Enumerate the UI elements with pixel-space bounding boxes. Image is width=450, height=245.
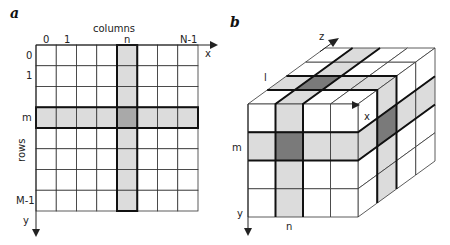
grid-cell [178,128,198,149]
y-axis-label-b: y [237,208,243,219]
grid-cell [56,170,76,191]
x-axis-label-b: x [364,111,370,122]
grid-cell [77,87,97,108]
front-face-cell [276,161,304,189]
label-m: m [232,142,242,153]
grid-cell [56,87,76,108]
cube-3d [244,38,435,236]
column-label-n: n [124,34,130,45]
grid-cell [158,190,178,211]
grid-cell [117,128,137,149]
columns-title: columns [93,23,135,34]
z-arrow-icon [328,38,339,47]
column-label-0: 0 [43,34,49,45]
grid-cell [77,128,97,149]
grid-cell [158,45,178,66]
grid-cell [137,170,157,191]
label-n: n [286,221,292,232]
grid-cell [36,107,56,128]
grid-cell [178,149,198,170]
grid-cell [97,128,117,149]
z-axis-label: z [319,31,324,42]
label-l: l [264,72,267,83]
figure-canvas: a columns 0 1 n N-1 0 1 m M-1 rows x y b… [0,0,450,245]
grid-cell [77,107,97,128]
grid-cell [137,128,157,149]
row-label-m-minus-1: M-1 [16,195,35,206]
y-axis-label-a: y [23,215,29,226]
grid-cell [137,87,157,108]
grid-cell [97,149,117,170]
row-label-1: 1 [26,70,32,81]
grid-cell [178,190,198,211]
grid-cell [178,107,198,128]
grid-cell [56,149,76,170]
panel-b: b z l m n x y [230,14,435,236]
grid-cell [117,45,137,66]
front-face-cell [303,189,331,217]
grid-cell [77,149,97,170]
grid-cell [36,190,56,211]
grid-cell [117,170,137,191]
front-face-cell [303,161,331,189]
grid-cell [158,149,178,170]
grid-cell [137,66,157,87]
rows-axis-label: rows [16,139,27,162]
grid-cell [137,107,157,128]
grid-cell [56,128,76,149]
column-label-n-minus-1: N-1 [180,34,197,45]
grid-cell [117,66,137,87]
grid-cell [97,45,117,66]
grid-cell [97,87,117,108]
grid-cell [178,66,198,87]
panel-a-letter: a [10,5,19,21]
panel-a: a columns 0 1 n N-1 0 1 m M-1 rows x y [10,5,218,237]
front-face-cell [248,189,276,217]
front-face-cell [248,132,276,160]
grid-cell [97,170,117,191]
y-arrow-icon [32,229,40,237]
grid-cell [158,107,178,128]
x-axis-label-a: x [205,48,211,59]
grid-cell [77,190,97,211]
grid-cell [117,107,137,128]
front-face-cell [331,189,359,217]
grid-cell [56,45,76,66]
grid-cell [178,87,198,108]
grid-cell [77,66,97,87]
front-face-cell [248,161,276,189]
grid-cell [158,66,178,87]
grid-cell [36,170,56,191]
panel-b-letter: b [230,14,240,30]
grid-cell [97,107,117,128]
front-face-cell [276,132,304,160]
grid-cell [158,87,178,108]
front-face-cell [303,104,331,132]
grid-cell [36,128,56,149]
grid-cell [117,149,137,170]
grid-2d [36,45,198,211]
grid-cell [117,87,137,108]
y-arrow-icon [244,228,252,236]
front-face-cell [276,189,304,217]
grid-cell [158,170,178,191]
grid-cell [36,45,56,66]
column-label-1: 1 [64,34,70,45]
front-face-cell [248,104,276,132]
grid-cell [77,170,97,191]
grid-cell [56,107,76,128]
front-face-cell [331,132,359,160]
grid-cell [178,170,198,191]
grid-cell [36,66,56,87]
grid-cell [56,190,76,211]
grid-cell [158,128,178,149]
front-face-cell [331,161,359,189]
grid-cell [137,149,157,170]
grid-cell [56,66,76,87]
grid-cell [137,45,157,66]
grid-cell [77,45,97,66]
front-face-cell [331,104,359,132]
x-arrow-icon [210,41,218,49]
grid-cell [97,66,117,87]
grid-cell [178,45,198,66]
